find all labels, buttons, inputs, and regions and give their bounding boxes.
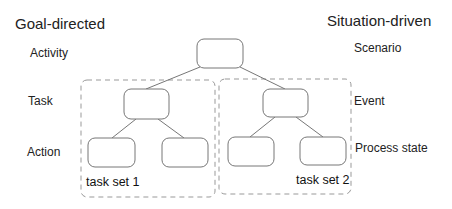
task-set-1-label: task set 1 — [86, 175, 140, 189]
node-action-2b — [300, 137, 346, 165]
node-task-2 — [263, 89, 308, 117]
task-set-2-label: task set 2 — [296, 173, 350, 187]
left-heading: Goal-directed — [15, 15, 105, 32]
edge-activity-task1 — [146, 67, 200, 89]
node-task-1 — [124, 89, 169, 119]
edge-task2-action1 — [250, 117, 275, 137]
level-event: Event — [354, 94, 385, 108]
node-action-2a — [228, 137, 274, 166]
edge-activity-task2 — [240, 67, 285, 89]
level-action: Action — [27, 145, 60, 159]
node-action-1a — [88, 138, 135, 167]
node-action-1b — [162, 138, 208, 167]
level-activity: Activity — [30, 46, 68, 60]
edge-task1-action1 — [112, 119, 136, 138]
edge-task1-action2 — [158, 119, 184, 138]
node-activity — [197, 39, 243, 68]
level-scenario: Scenario — [354, 41, 401, 55]
level-process-state: Process state — [355, 141, 428, 155]
right-heading: Situation-driven — [327, 12, 431, 29]
level-task: Task — [28, 94, 53, 108]
edge-task2-action2 — [296, 117, 323, 137]
